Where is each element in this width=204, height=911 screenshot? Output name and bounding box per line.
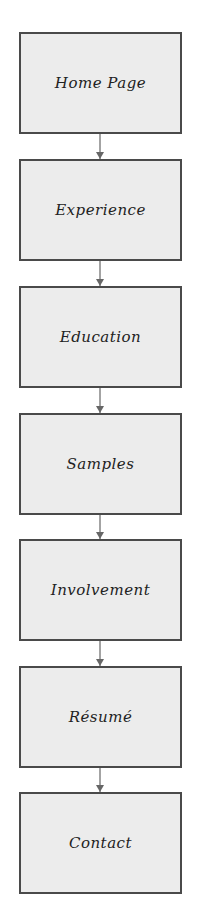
arrow-down-icon — [99, 261, 101, 286]
node-label: Involvement — [51, 581, 151, 599]
site-map-flowchart: Home Page Experience Education Samples I… — [0, 0, 204, 911]
arrow-down-icon — [99, 134, 101, 159]
node-home-page: Home Page — [19, 32, 182, 134]
node-label: Experience — [55, 201, 146, 219]
node-label: Contact — [69, 834, 132, 852]
node-label: Samples — [67, 455, 135, 473]
node-involvement: Involvement — [19, 539, 182, 641]
node-experience: Experience — [19, 159, 182, 261]
node-contact: Contact — [19, 792, 182, 894]
node-label: Home Page — [55, 74, 146, 92]
arrow-down-icon — [99, 768, 101, 792]
node-education: Education — [19, 286, 182, 388]
node-resume: Résumé — [19, 666, 182, 768]
node-label: Résumé — [69, 708, 133, 726]
arrow-down-icon — [99, 388, 101, 413]
node-label: Education — [60, 328, 142, 346]
arrow-down-icon — [99, 641, 101, 666]
arrow-down-icon — [99, 515, 101, 539]
node-samples: Samples — [19, 413, 182, 515]
